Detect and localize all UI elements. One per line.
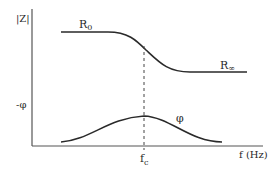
phase-curve [61, 116, 222, 142]
x-axis-label: f (Hz) [239, 149, 268, 160]
phi-label: φ [176, 112, 184, 125]
fc-label: fc [140, 152, 149, 167]
r0-label: R0 [79, 18, 92, 32]
impedance-diagram: |Z| -φ R0 R∞ φ fc f (Hz) [0, 0, 279, 171]
rinf-label: R∞ [220, 59, 235, 73]
y-axis-upper-label: |Z| [16, 13, 30, 25]
y-axis-lower-label: -φ [16, 99, 26, 110]
